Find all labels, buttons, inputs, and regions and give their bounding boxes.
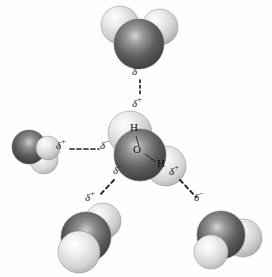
sign-glyph: + xyxy=(61,137,66,146)
hbond-line-bottom-left xyxy=(99,180,114,196)
sign-glyph: − xyxy=(137,63,142,72)
charge-label-bottom-left-negative: δ− xyxy=(113,165,123,176)
charge-label-bottom-right-negative: δ− xyxy=(194,192,204,203)
charge-label-left-negative: δ− xyxy=(100,140,110,151)
hydrogen-bond-lines-layer xyxy=(0,0,272,277)
atom-label-oxygen: O xyxy=(133,144,141,155)
atom-label-hydrogen-right: H xyxy=(157,158,165,169)
sign-glyph: + xyxy=(90,189,95,198)
sign-glyph: − xyxy=(105,137,110,146)
charge-label-bottom-left-positive: δ+ xyxy=(85,192,95,203)
molecular-diagram-canvas: H O H δ− δ+ δ+ δ− δ− δ+ δ+ δ− xyxy=(0,0,272,277)
charge-label-bottom-right-positive: δ+ xyxy=(169,166,179,177)
sign-glyph: − xyxy=(118,162,123,171)
charge-label-left-positive: δ+ xyxy=(56,140,66,151)
sign-glyph: − xyxy=(199,189,204,198)
charge-label-top-negative: δ− xyxy=(132,66,142,77)
sign-glyph: + xyxy=(174,163,179,172)
atom-label-hydrogen-top: H xyxy=(130,122,138,133)
sign-glyph: + xyxy=(137,95,142,104)
charge-label-top-positive: δ+ xyxy=(132,98,142,109)
